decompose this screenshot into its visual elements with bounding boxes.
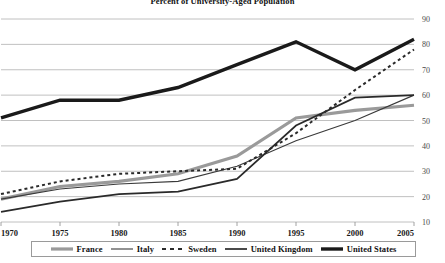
legend-label: France <box>77 244 103 254</box>
x-tick-label: 2000 <box>347 228 364 238</box>
legend-swatch-united-states <box>321 244 343 254</box>
y-tick-label: 60 <box>422 91 430 100</box>
x-tick-label: 1975 <box>52 228 69 238</box>
y-tick-label: 40 <box>422 142 430 151</box>
legend-label: Sweden <box>188 244 216 254</box>
series-line-united-states <box>1 39 414 118</box>
legend-item-italy[interactable]: Italy <box>111 244 155 254</box>
y-tick-label: 90 <box>422 15 430 24</box>
y-tick-label: 50 <box>422 117 430 126</box>
y-tick-label: 30 <box>422 167 430 176</box>
legend-swatch-italy <box>111 244 133 254</box>
legend-label: United Kingdom <box>251 244 313 254</box>
legend-item-united-states[interactable]: United States <box>321 244 397 254</box>
legend-swatch-sweden <box>162 244 184 254</box>
y-tick-label: 80 <box>422 40 430 49</box>
y-axis-tick-labels: 102030405060708090 <box>422 15 430 227</box>
y-tick-label: 20 <box>422 193 430 202</box>
x-tick-label: 1980 <box>111 228 128 238</box>
y-tick-label: 10 <box>422 218 430 227</box>
series-lines-group <box>1 39 414 212</box>
gridlines-group <box>1 19 414 222</box>
legend-label: Italy <box>137 244 155 254</box>
x-tick-label: 1990 <box>229 228 246 238</box>
x-tick-label: 1970 <box>1 228 18 238</box>
x-tick-label: 1995 <box>288 228 305 238</box>
legend-swatch-france <box>51 244 73 254</box>
x-tick-label: 1985 <box>170 228 187 238</box>
chart-legend: FranceItalySwedenUnited KingdomUnited St… <box>31 241 416 257</box>
legend-item-sweden[interactable]: Sweden <box>162 244 216 254</box>
legend-item-united-kingdom[interactable]: United Kingdom <box>225 244 313 254</box>
legend-label: United States <box>347 244 397 254</box>
legend-item-france[interactable]: France <box>51 244 103 254</box>
series-line-united-kingdom <box>1 95 414 212</box>
chart-plot-area: 102030405060708090 197019751980198519901… <box>0 0 445 263</box>
x-axis-tick-labels: 19701975198019851990199520002005 <box>1 228 414 238</box>
y-tick-label: 70 <box>422 66 430 75</box>
x-tick-label: 2005 <box>397 228 414 238</box>
x-axis-ticks <box>1 222 414 226</box>
legend-swatch-united-kingdom <box>225 244 247 254</box>
chart-container: Percent of University-Aged Population 10… <box>0 0 445 263</box>
